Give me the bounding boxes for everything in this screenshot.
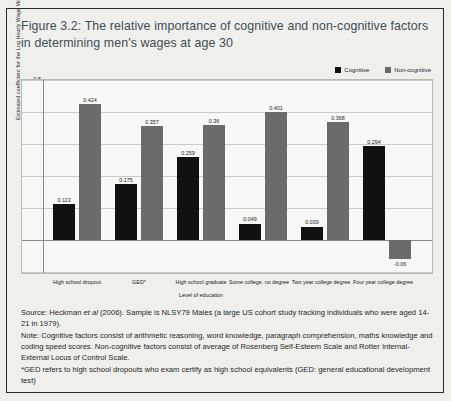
bar-label-non-cognitive-four-year-college-degree: -0.06 (381, 261, 419, 267)
x-tick-four-year-college-degree: Four year college degree (352, 279, 414, 286)
bar-non-cognitive-some-college-no-degree (265, 112, 287, 240)
note-source-prefix: Source: Heckman (21, 308, 83, 317)
x-axis-label: Level of education (141, 292, 261, 298)
note-source-italic: et al (83, 308, 97, 317)
legend-item-cognitive: Cognitive (335, 67, 369, 73)
bar-group-ged: 0.175 0.357 (109, 80, 171, 273)
bar-non-cognitive-high-school-dropout (79, 104, 101, 240)
bar-label-cognitive-some-college-no-degree: 0.049 (231, 216, 269, 222)
note-definition: Note: Cognitive factors consist of arith… (21, 330, 435, 364)
bar-cognitive-ged (115, 184, 137, 240)
bar-label-non-cognitive-two-year-college-degree: 0.368 (319, 115, 357, 121)
legend-swatch-non-cognitive (385, 67, 391, 73)
bar-label-cognitive-four-year-college-degree: 0.294 (355, 139, 393, 145)
bar-label-non-cognitive-ged: 0.357 (133, 119, 171, 125)
bar-cognitive-two-year-college-degree (301, 227, 323, 240)
figure-container: Figure 3.2: The relative importance of c… (6, 8, 444, 393)
legend-swatch-cognitive (335, 67, 341, 73)
bar-label-non-cognitive-high-school-dropout: 0.424 (71, 97, 109, 103)
bar-cognitive-some-college-no-degree (239, 224, 261, 240)
bar-label-non-cognitive-high-school-graduate: 0.36 (195, 118, 233, 124)
bar-cognitive-four-year-college-degree (363, 146, 385, 240)
bar-label-cognitive-ged: 0.175 (107, 177, 145, 183)
legend-item-non-cognitive: Non-cognitive (385, 67, 431, 73)
x-tick-some-college-no-degree: Some college, no degree (228, 279, 290, 286)
plot-frame: 0.113 0.424 0.175 0.357 0.259 (21, 79, 433, 274)
y-axis-line (43, 80, 44, 273)
bar-non-cognitive-four-year-college-degree (389, 240, 411, 259)
chart-area: Cognitive Non-cognitive Estimated coeffi… (21, 64, 433, 299)
chart-legend: Cognitive Non-cognitive (335, 64, 431, 76)
bar-group-high-school-dropout: 0.113 0.424 (47, 80, 109, 273)
bar-group-four-year-college-degree: 0.294 -0.06 (357, 80, 419, 273)
figure-page: Figure 3.2: The relative importance of c… (0, 0, 451, 401)
bar-cognitive-high-school-dropout (53, 204, 75, 240)
bar-group-two-year-college-degree: 0.039 0.368 (295, 80, 357, 273)
note-source: Source: Heckman et al (2006). Sample is … (21, 307, 435, 329)
page-title: Figure 3.2: The relative importance of c… (21, 18, 429, 51)
bar-non-cognitive-ged (141, 126, 163, 240)
plot-inner: 0.113 0.424 0.175 0.357 0.259 (22, 80, 432, 273)
bar-label-cognitive-two-year-college-degree: 0.039 (293, 219, 331, 225)
x-tick-two-year-college-degree: Two year college degree (290, 279, 352, 286)
bar-group-some-college-no-degree: 0.049 0.401 (233, 80, 295, 273)
bar-non-cognitive-high-school-graduate (203, 125, 225, 240)
figure-notes: Source: Heckman et al (2006). Sample is … (21, 307, 435, 387)
bar-label-cognitive-high-school-dropout: 0.113 (45, 197, 83, 203)
bar-non-cognitive-two-year-college-degree (327, 122, 349, 240)
bar-label-non-cognitive-some-college-no-degree: 0.401 (257, 105, 295, 111)
legend-label-non-cognitive: Non-cognitive (394, 67, 431, 73)
bar-label-cognitive-high-school-graduate: 0.259 (169, 150, 207, 156)
bar-cognitive-high-school-graduate (177, 157, 199, 240)
legend-label-cognitive: Cognitive (344, 67, 369, 73)
bar-group-high-school-graduate: 0.259 0.36 (171, 80, 233, 273)
note-ged: *GED refers to high school dropouts who … (21, 364, 435, 386)
